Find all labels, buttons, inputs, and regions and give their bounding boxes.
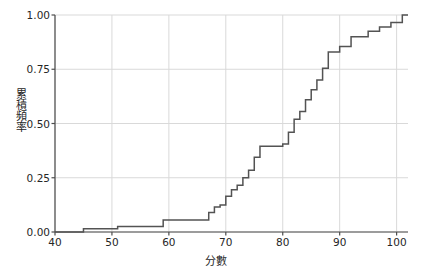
axis-ticks [52, 15, 397, 236]
gridlines [55, 15, 408, 232]
cumulative-frequency-chart: 累積頻率 分數 0.000.250.500.751.00 40506070809… [0, 0, 431, 274]
plot-area [0, 0, 431, 274]
